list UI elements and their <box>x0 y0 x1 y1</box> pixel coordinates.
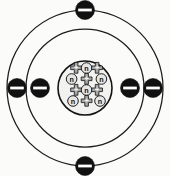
neutron-particle: n <box>81 85 92 96</box>
proton-symbol: + <box>84 74 89 83</box>
neutron-particle: n <box>81 63 92 74</box>
outer-shell-electron-bottom <box>76 157 95 176</box>
outer-shell-electron-right <box>144 79 163 98</box>
proton-symbol: + <box>95 63 100 72</box>
nucleus-row-1: + n + <box>71 62 103 73</box>
outer-shell-electron-left <box>8 79 27 98</box>
proton-symbol: + <box>84 96 89 105</box>
bohr-atomic-model-diagram: + n + n + n <box>0 0 170 176</box>
proton-symbol: + <box>74 63 79 72</box>
neutron-particle: n <box>66 74 77 85</box>
neutron-symbol: n <box>69 75 73 84</box>
neutron-particle: n <box>68 96 79 107</box>
neutron-symbol: n <box>99 75 103 84</box>
nucleus-row-2: n + n <box>66 73 106 84</box>
nucleus-row-3: + n + <box>71 84 103 95</box>
inner-shell-electron-left <box>31 79 50 98</box>
neutron-particle: n <box>95 96 106 107</box>
proton-symbol: + <box>74 85 79 94</box>
proton-symbol: + <box>95 85 100 94</box>
inner-shell-electron-right <box>121 79 140 98</box>
neutron-symbol: n <box>98 97 102 106</box>
atom-diagram-canvas: + n + n + n <box>0 0 170 176</box>
neutron-symbol: n <box>84 64 88 73</box>
neutron-symbol: n <box>71 97 75 106</box>
nucleus-row-4: n + n <box>68 95 106 106</box>
neutron-particle: n <box>96 74 107 85</box>
neutron-symbol: n <box>84 86 88 95</box>
outer-shell-electron-top <box>76 1 95 20</box>
